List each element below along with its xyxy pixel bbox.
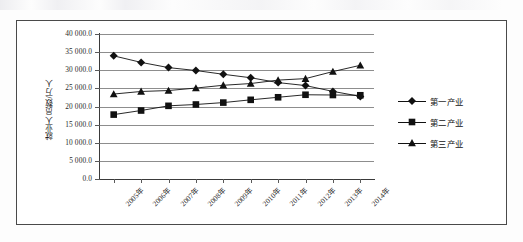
x-axis-tick (169, 179, 170, 183)
x-axis-label: 2011年 (288, 187, 309, 208)
x-axis-tick (278, 179, 279, 183)
x-axis-tick (333, 179, 334, 183)
x-axis-label: 2009年 (234, 187, 255, 208)
y-axis-label: 10 000.0 (65, 139, 92, 146)
x-axis-label: 2007年 (179, 187, 200, 208)
x-axis-label: 2012年 (316, 187, 337, 208)
scan-artifact-band (0, 0, 523, 10)
legend-item[interactable]: 第二产业 (398, 116, 463, 128)
y-axis-tick (95, 179, 100, 180)
y-axis-label: 35 000.0 (65, 48, 92, 55)
x-axis-label: 2014年 (371, 187, 392, 208)
legend-label: 第三产业 (430, 137, 463, 149)
x-axis-tick (141, 179, 142, 183)
y-axis-label: 5 000.0 (69, 157, 92, 164)
legend-diamond-icon (398, 96, 426, 106)
y-axis-label: 0.0 (82, 175, 92, 182)
x-axis-label: 2006年 (151, 187, 172, 208)
x-axis-label: 2013年 (343, 187, 364, 208)
legend-item[interactable]: 第三产业 (398, 137, 463, 149)
y-axis-label: 25 000.0 (65, 85, 92, 92)
x-axis-tick (360, 179, 361, 183)
legend-square-icon (398, 117, 426, 127)
legend-triangle-icon (398, 138, 426, 148)
chart-page: 就业人员数/万人 0.05 000.010 000.015 000.020 00… (0, 0, 523, 242)
x-axis-label: 2010年 (261, 187, 282, 208)
series-diamond (110, 52, 365, 101)
series-square (110, 91, 363, 117)
y-axis-label: 30 000.0 (65, 67, 92, 74)
chart-legend: 第一产业第二产业第三产业 (398, 95, 463, 149)
legend-item[interactable]: 第一产业 (398, 95, 463, 107)
y-axis-label: 15 000.0 (65, 121, 92, 128)
y-axis-label: 40 000.0 (65, 30, 92, 37)
x-axis-tick (114, 179, 115, 183)
series-lines (100, 34, 374, 179)
legend-label: 第一产业 (430, 95, 463, 107)
x-axis-tick (223, 179, 224, 183)
series-triangle (110, 61, 364, 97)
y-axis-title: 就业人员数/万人 (45, 79, 54, 140)
legend-label: 第二产业 (430, 116, 463, 128)
x-axis-tick (251, 179, 252, 183)
y-axis-label: 20 000.0 (65, 103, 92, 110)
x-axis-label: 2005年 (124, 187, 145, 208)
x-axis-tick (196, 179, 197, 183)
plot-area: 0.05 000.010 000.015 000.020 000.025 000… (100, 34, 374, 179)
x-axis-tick (306, 179, 307, 183)
x-axis-label: 2008年 (206, 187, 227, 208)
